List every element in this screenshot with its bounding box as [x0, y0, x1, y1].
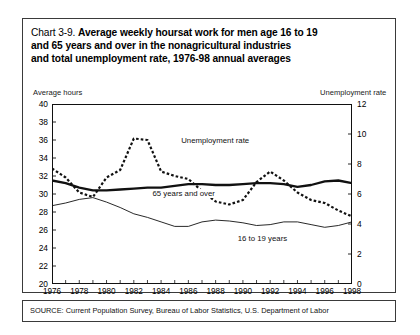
x-axis-tick-label: 1988 — [201, 287, 231, 296]
y-axis-right-tick-label: 10 — [357, 129, 375, 139]
y-axis-right-tick-label: 4 — [357, 219, 375, 229]
y-axis-right-tick-label: 8 — [357, 159, 375, 169]
right-axis-caption: Unemployment rate — [320, 88, 386, 97]
x-axis-tick-label: 1986 — [173, 287, 203, 296]
chart-title-prefix: Chart 3-9. — [31, 27, 78, 38]
y-axis-left-tick-label: 32 — [30, 171, 48, 181]
source-note: SOURCE: Current Population Survey, Burea… — [30, 306, 329, 315]
series-line-0 — [52, 139, 352, 217]
y-axis-left-tick-label: 26 — [30, 225, 48, 235]
chart-title-line-1: Average weekly hoursat work for men age … — [78, 27, 317, 38]
x-axis-tick-label: 1978 — [64, 287, 94, 296]
y-axis-right-tick-label: 6 — [357, 189, 375, 199]
y-axis-right-tick-label: 2 — [357, 249, 375, 259]
x-axis-tick-label: 1990 — [228, 287, 258, 296]
series-line-2 — [52, 198, 352, 228]
chart-title-line-2: and 65 years and over in the nonagricult… — [31, 40, 291, 51]
x-axis-tick-label: 1992 — [255, 287, 285, 296]
series-label-1: 65 years and over — [152, 189, 216, 198]
chart-title: Chart 3-9. Average weekly hoursat work f… — [31, 26, 381, 66]
y-axis-left-tick-label: 36 — [30, 135, 48, 145]
x-axis-tick-label: 1996 — [310, 287, 340, 296]
x-axis-tick-label: 1982 — [119, 287, 149, 296]
y-axis-left-tick-label: 34 — [30, 153, 48, 163]
chart-title-line-3: and total unemployment rate, 1976-98 ann… — [31, 53, 291, 64]
series-label-2: 16 to 19 years — [237, 234, 288, 243]
y-axis-left-tick-label: 28 — [30, 207, 48, 217]
x-axis-tick-label: 1998 — [337, 287, 367, 296]
y-axis-left-tick-label: 22 — [30, 261, 48, 271]
series-label-0: Unemployment rate — [180, 136, 250, 145]
y-axis-left-tick-label: 30 — [30, 189, 48, 199]
y-axis-left-tick-label: 38 — [30, 117, 48, 127]
y-axis-right-tick-label: 12 — [357, 99, 375, 109]
x-axis-tick-label: 1994 — [282, 287, 312, 296]
x-axis-tick-label: 1980 — [92, 287, 122, 296]
chart-figure: Chart 3-9. Average weekly hoursat work f… — [0, 0, 420, 335]
left-axis-caption: Average hours — [33, 88, 82, 97]
y-axis-left-tick-label: 40 — [30, 99, 48, 109]
x-axis-tick-label: 1976 — [37, 287, 67, 296]
x-axis-tick-label: 1984 — [146, 287, 176, 296]
y-axis-left-tick-label: 24 — [30, 243, 48, 253]
